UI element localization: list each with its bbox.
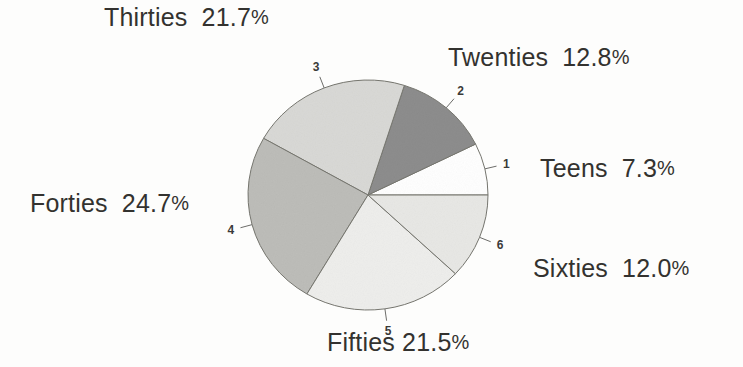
callout-fifties-category: Fifties	[327, 328, 395, 356]
callout-fifties-percent-sign: %	[452, 331, 470, 353]
pie-slices-group	[248, 80, 488, 310]
callout-thirties-value: 21.7	[202, 3, 251, 31]
slice-number-3: 3	[313, 60, 320, 74]
callout-forties-category: Forties	[30, 189, 108, 217]
callout-teens-percent-sign: %	[657, 157, 675, 179]
leader-line-2	[446, 99, 454, 108]
leader-line-1	[485, 166, 497, 169]
callout-teens-category: Teens	[540, 154, 608, 182]
slice-number-2: 2	[457, 84, 464, 98]
callout-twenties-percent-sign: %	[612, 46, 630, 68]
callout-twenties-category: Twenties	[448, 43, 548, 71]
callout-fifties-value: 21.5	[402, 328, 451, 356]
callout-sixties-category: Sixties	[533, 254, 608, 282]
callout-teens-value: 7.3	[622, 154, 657, 182]
callout-twenties-value: 12.8	[562, 43, 611, 71]
callout-thirties-category: Thirties	[104, 3, 188, 31]
callout-sixties: Sixties12.0%	[533, 256, 690, 281]
callout-forties: Forties24.7%	[30, 191, 189, 216]
callout-fifties: Fifties21.5%	[327, 330, 470, 355]
callout-forties-percent-sign: %	[171, 192, 189, 214]
leader-line-4	[240, 225, 252, 228]
callout-sixties-value: 12.0	[622, 254, 671, 282]
slice-number-4: 4	[227, 223, 234, 237]
callout-thirties: Thirties21.7%	[104, 5, 269, 30]
leader-line-6	[480, 237, 491, 241]
callout-sixties-percent-sign: %	[672, 257, 690, 279]
slice-number-1: 1	[503, 157, 510, 171]
leader-line-3	[320, 77, 324, 88]
leader-line-5	[385, 309, 387, 321]
callout-twenties: Twenties12.8%	[448, 45, 630, 70]
pie-chart-graphic: 123456	[0, 0, 743, 367]
callout-thirties-percent-sign: %	[251, 6, 269, 28]
callout-forties-value: 24.7	[122, 189, 171, 217]
pie-chart-figure: 123456 Thirties21.7% Twenties12.8% Teens…	[0, 0, 743, 367]
callout-teens: Teens7.3%	[540, 156, 675, 181]
slice-number-6: 6	[497, 238, 504, 252]
